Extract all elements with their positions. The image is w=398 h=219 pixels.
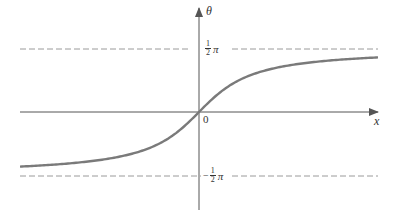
y-axis-label: θ bbox=[206, 4, 212, 19]
origin-label: 0 bbox=[203, 113, 209, 125]
lower-asymptote-label: − 1 2 π bbox=[203, 167, 223, 184]
arctan-plot bbox=[0, 0, 398, 219]
x-axis-label: x bbox=[374, 114, 379, 129]
fraction: 1 2 bbox=[205, 40, 211, 57]
upper-asymptote-label: 1 2 π bbox=[204, 40, 219, 57]
fraction: 1 2 bbox=[210, 167, 216, 184]
